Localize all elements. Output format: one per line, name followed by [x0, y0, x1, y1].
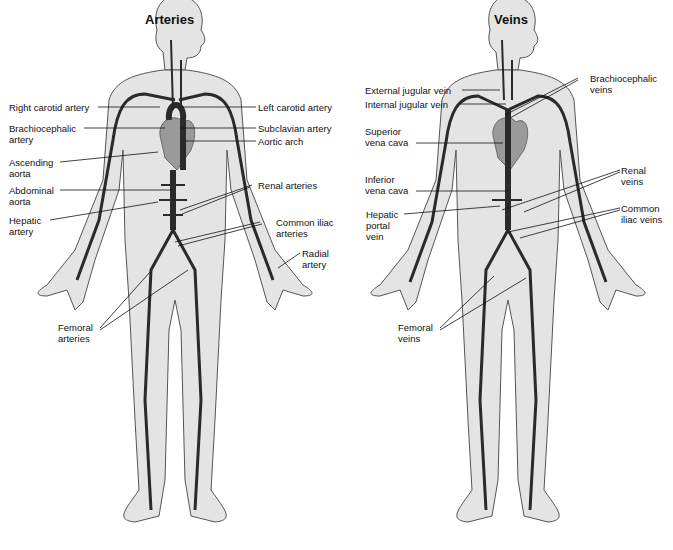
label-hepatic-portal-vein: Hepatic portal vein: [366, 209, 398, 242]
label-external-jugular-vein: External jugular vein: [365, 85, 451, 96]
label-subclavian-artery: Subclavian artery: [258, 123, 331, 134]
label-right-carotid-artery: Right carotid artery: [9, 102, 89, 113]
label-internal-jugular-vein: Internal jugular vein: [365, 99, 448, 110]
label-hepatic-artery: Hepatic artery: [9, 215, 41, 237]
label-renal-arteries: Renal arteries: [258, 180, 317, 191]
circulatory-diagram: [0, 0, 673, 550]
label-common-iliac-veins: Common iliac veins: [621, 203, 662, 225]
label-aortic-arch: Aortic arch: [258, 136, 303, 147]
label-brachiocephalic-artery: Brachiocephalic artery: [9, 123, 76, 145]
label-femoral-veins: Femoral veins: [398, 322, 433, 344]
label-renal-veins: Renal veins: [621, 165, 646, 187]
label-femoral-arteries: Femoral arteries: [58, 322, 93, 344]
label-abdominal-aorta: Abdominal aorta: [9, 185, 54, 207]
label-inferior-vena-cava: Inferior vena cava: [365, 174, 408, 196]
arteries-body: [38, 0, 312, 522]
label-ascending-aorta: Ascending aorta: [9, 157, 53, 179]
label-common-iliac-arteries: Common iliac arteries: [276, 217, 334, 239]
veins-title: Veins: [494, 12, 528, 27]
label-brachiocephalic-veins: Brachiocephalic veins: [590, 73, 657, 95]
arteries-title: Arteries: [145, 12, 194, 27]
label-left-carotid-artery: Left carotid artery: [258, 102, 332, 113]
label-superior-vena-cava: Superior vena cava: [365, 126, 408, 148]
label-radial-artery: Radial artery: [302, 248, 329, 270]
